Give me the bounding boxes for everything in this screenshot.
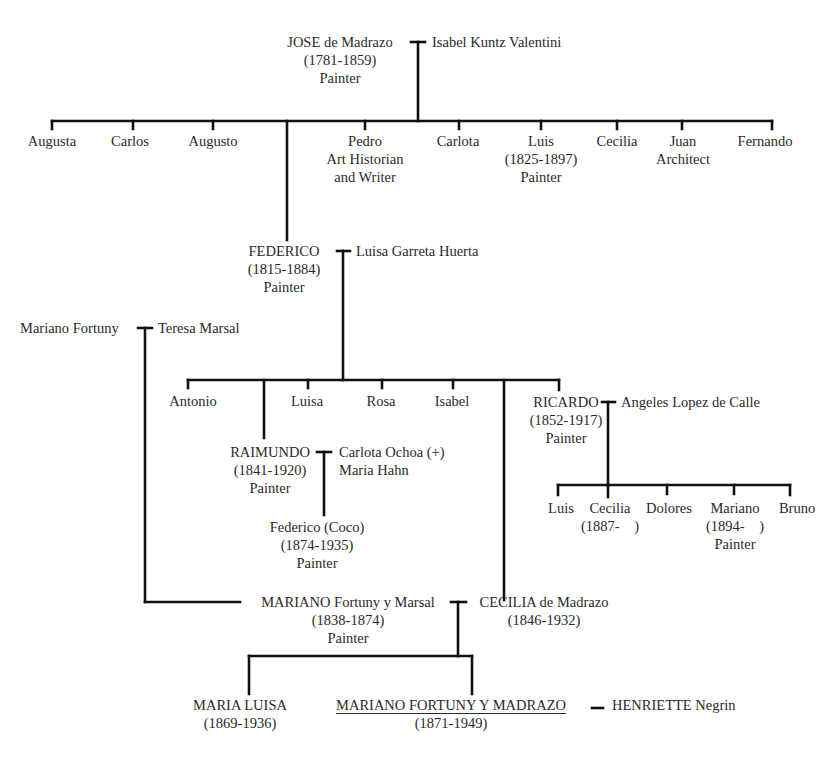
person-luisa-garreta-huerta: Luisa Garreta Huerta [356, 242, 478, 260]
person-raimundo: RAIMUNDO (1841-1920) Painter [230, 443, 310, 497]
person-cecilia-de-madrazo: CECILIA de Madrazo (1846-1932) [480, 593, 609, 629]
person-name: Rosa [367, 392, 396, 410]
family-tree-diagram: JOSE de Madrazo (1781-1859) Painter Isab… [0, 0, 827, 764]
person-dates: (1846-1932) [480, 611, 609, 629]
person-role: Painter [287, 69, 393, 87]
person-henriette-negrin: HENRIETTE Negrin [612, 696, 736, 714]
person-mariano-fortuny-y-madrazo: MARIANO FORTUNY Y MADRAZO (1871-1949) [336, 696, 566, 732]
person-maria-luisa: MARIA LUISA (1869-1936) [193, 696, 287, 732]
person-name: Maria Hahn [339, 461, 445, 479]
person-name: Isabel Kuntz Valentini [432, 33, 561, 51]
person-dates: (1838-1874) [261, 611, 435, 629]
person-dates: (1894- ) [706, 517, 764, 535]
person-name: Augusto [188, 132, 237, 150]
person-luis-ricardo-son: Luis [548, 499, 574, 517]
person-name: Pedro [327, 132, 404, 150]
person-ricardo: RICARDO (1852-1917) Painter [530, 393, 603, 447]
person-role: Painter [270, 554, 365, 572]
person-carlota: Carlota [437, 132, 480, 150]
person-raimundo-spouses: Carlota Ochoa (+) Maria Hahn [339, 443, 445, 479]
person-name: MARIANO Fortuny y Marsal [261, 593, 435, 611]
person-role: Painter [261, 629, 435, 647]
person-fernando: Fernando [738, 132, 793, 150]
person-angeles-lopez-de-calle: Angeles Lopez de Calle [621, 393, 760, 411]
person-isabel: Isabel [435, 392, 470, 410]
person-dolores: Dolores [646, 499, 692, 517]
person-cecilia-ricardo-daughter: Cecilia (1887- ) [581, 499, 639, 535]
person-name: Antonio [169, 392, 217, 410]
person-mariano-ricardo-son: Mariano (1894- ) Painter [706, 499, 764, 553]
person-name: Mariano Fortuny [20, 319, 119, 337]
person-name: Fernando [738, 132, 793, 150]
connector-lines [0, 0, 827, 764]
person-name: Cecilia [596, 132, 637, 150]
person-dates: (1871-1949) [336, 714, 566, 732]
person-dates: (1815-1884) [248, 260, 321, 278]
person-dates: (1852-1917) [530, 411, 603, 429]
person-role: Painter [230, 479, 310, 497]
person-federico-coco: Federico (Coco) (1874-1935) Painter [270, 518, 365, 572]
person-name: Luisa [291, 392, 323, 410]
person-name: Carlos [111, 132, 149, 150]
person-luisa: Luisa [291, 392, 323, 410]
person-role: Art Historian [327, 150, 404, 168]
person-pedro: Pedro Art Historian and Writer [327, 132, 404, 186]
person-name: Juan [656, 132, 710, 150]
person-bruno: Bruno [779, 499, 815, 517]
person-federico: FEDERICO (1815-1884) Painter [248, 242, 321, 296]
person-name: Federico (Coco) [270, 518, 365, 536]
person-name: Luisa Garreta Huerta [356, 242, 478, 260]
person-name: Bruno [779, 499, 815, 517]
person-mariano-fortuny: Mariano Fortuny [20, 319, 119, 337]
person-jose-de-madrazo: JOSE de Madrazo (1781-1859) Painter [287, 33, 393, 87]
person-antonio: Antonio [169, 392, 217, 410]
person-name: CECILIA de Madrazo [480, 593, 609, 611]
person-name: Luis [505, 132, 578, 150]
person-luis: Luis (1825-1897) Painter [505, 132, 578, 186]
person-dates: (1825-1897) [505, 150, 578, 168]
person-name: HENRIETTE Negrin [612, 696, 736, 714]
person-role: Painter [505, 168, 578, 186]
person-name: MARIANO FORTUNY Y MADRAZO [336, 696, 566, 714]
person-carlos: Carlos [111, 132, 149, 150]
person-name: RICARDO [530, 393, 603, 411]
person-name: FEDERICO [248, 242, 321, 260]
person-name: RAIMUNDO [230, 443, 310, 461]
person-dates: (1869-1936) [193, 714, 287, 732]
person-name: Isabel [435, 392, 470, 410]
person-isabel-kuntz-valentini: Isabel Kuntz Valentini [432, 33, 561, 51]
person-role: Painter [530, 429, 603, 447]
person-augusta: Augusta [28, 132, 76, 150]
person-dates: (1841-1920) [230, 461, 310, 479]
person-name: Luis [548, 499, 574, 517]
person-dates: (1887- ) [581, 517, 639, 535]
person-role: Painter [706, 535, 764, 553]
person-role: Architect [656, 150, 710, 168]
person-name: Carlota Ochoa (+) [339, 443, 445, 461]
person-name: JOSE de Madrazo [287, 33, 393, 51]
person-name: Mariano [706, 499, 764, 517]
person-mariano-fortuny-y-marsal: MARIANO Fortuny y Marsal (1838-1874) Pai… [261, 593, 435, 647]
person-dates: (1781-1859) [287, 51, 393, 69]
person-role: and Writer [327, 168, 404, 186]
person-name: Teresa Marsal [158, 319, 240, 337]
person-teresa-marsal: Teresa Marsal [158, 319, 240, 337]
person-cecilia: Cecilia [596, 132, 637, 150]
person-dates: (1874-1935) [270, 536, 365, 554]
person-name: Angeles Lopez de Calle [621, 393, 760, 411]
person-augusto: Augusto [188, 132, 237, 150]
person-name: MARIA LUISA [193, 696, 287, 714]
person-rosa: Rosa [367, 392, 396, 410]
person-name: Dolores [646, 499, 692, 517]
person-juan: Juan Architect [656, 132, 710, 168]
person-name: Cecilia [581, 499, 639, 517]
person-role: Painter [248, 278, 321, 296]
person-name: Augusta [28, 132, 76, 150]
person-name: Carlota [437, 132, 480, 150]
